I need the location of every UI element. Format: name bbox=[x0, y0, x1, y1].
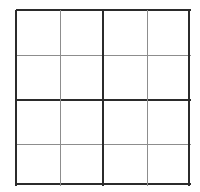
grid-cell[interactable] bbox=[147, 55, 189, 100]
grid-cell[interactable] bbox=[103, 144, 147, 184]
grid-line-vertical-outer-right bbox=[188, 10, 190, 186]
grid-cell[interactable] bbox=[16, 10, 60, 55]
grid-cell[interactable] bbox=[16, 100, 60, 144]
grid-cell[interactable] bbox=[147, 100, 189, 144]
grid-cell[interactable] bbox=[60, 144, 103, 184]
grid-cell[interactable] bbox=[60, 10, 103, 55]
grid-line-vertical-block bbox=[102, 10, 104, 186]
grid-cell[interactable] bbox=[16, 144, 60, 184]
grid-line-vertical-cell bbox=[147, 10, 148, 186]
grid-cell[interactable] bbox=[60, 100, 103, 144]
grid-cell[interactable] bbox=[60, 55, 103, 100]
grid-cell[interactable] bbox=[103, 10, 147, 55]
grid-cell[interactable] bbox=[147, 10, 189, 55]
image-canvas bbox=[0, 0, 200, 192]
grid-cell[interactable] bbox=[147, 144, 189, 184]
grid-line-vertical-cell bbox=[60, 10, 61, 186]
sudoku-grid[interactable] bbox=[16, 10, 191, 186]
grid-cell[interactable] bbox=[103, 100, 147, 144]
grid-cell[interactable] bbox=[16, 55, 60, 100]
grid-line-vertical-outer-left bbox=[15, 10, 17, 186]
grid-cell[interactable] bbox=[103, 55, 147, 100]
